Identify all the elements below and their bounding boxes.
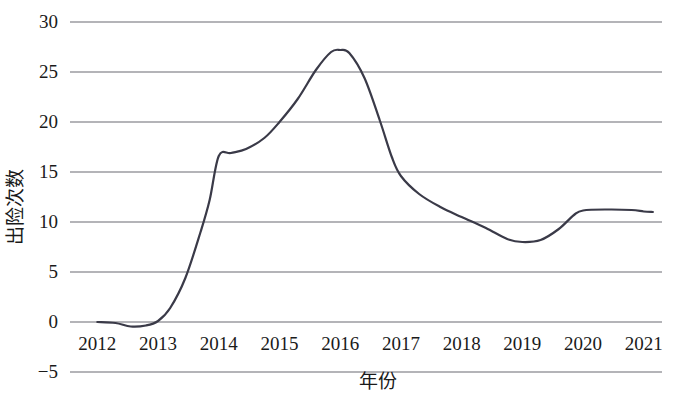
y-tick-label: 20 — [39, 111, 58, 132]
y-tick-label: 0 — [49, 311, 59, 332]
y-axis-title: 出险次数 — [5, 169, 26, 245]
x-tick-label: 2016 — [321, 333, 359, 354]
y-tick-label: 25 — [39, 61, 58, 82]
x-tick-label: 2017 — [382, 333, 420, 354]
x-tick-label: 2014 — [200, 333, 239, 354]
x-tick-label: 2015 — [260, 333, 298, 354]
x-tick-label: 2012 — [78, 333, 116, 354]
x-tick-label: 2013 — [139, 333, 177, 354]
x-tick-label: 2020 — [564, 333, 602, 354]
y-tick-label: 30 — [39, 11, 58, 32]
y-tick-label: 10 — [39, 211, 58, 232]
x-axis-tick-labels: 2012201320142015201620172018201920202021 — [78, 333, 662, 354]
x-tick-label: 2021 — [625, 333, 663, 354]
y-axis-tick-labels: 302520151050−5 — [38, 11, 58, 382]
x-tick-label: 2018 — [443, 333, 481, 354]
x-axis-title: 年份 — [359, 371, 397, 392]
claims-data-line — [97, 50, 653, 327]
x-tick-label: 2019 — [503, 333, 541, 354]
insurance-claims-line-chart: 302520151050−5 2012201320142015201620172… — [0, 0, 679, 400]
chart-canvas: 302520151050−5 2012201320142015201620172… — [0, 0, 679, 400]
y-tick-label: 15 — [39, 161, 58, 182]
y-tick-label: −5 — [38, 361, 58, 382]
y-tick-label: 5 — [49, 261, 59, 282]
